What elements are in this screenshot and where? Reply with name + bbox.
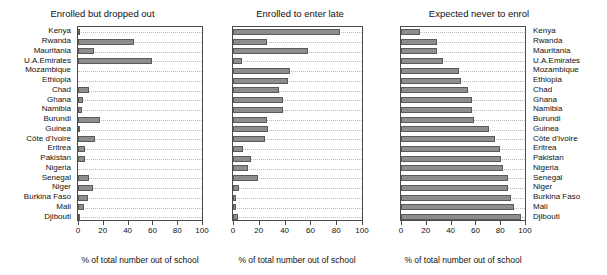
- bar: [233, 97, 283, 103]
- bar: [233, 48, 308, 54]
- bar: [401, 126, 489, 132]
- x-tick: [202, 221, 203, 225]
- panel-3-x-axis: 020406080100: [400, 221, 526, 241]
- x-tick: [426, 221, 427, 225]
- category-label: Kenya: [533, 26, 556, 35]
- category-label: Burkina Faso: [533, 192, 580, 201]
- x-tick-label: 40: [115, 226, 141, 235]
- bar: [78, 204, 84, 210]
- bar: [233, 146, 243, 152]
- bar: [401, 78, 461, 84]
- panel-3-x-axis-label: % of total number out of school: [348, 255, 578, 265]
- x-tick-label: 20: [413, 226, 439, 235]
- panel-2-x-axis: 020406080100: [232, 221, 363, 241]
- category-label: Nigeria: [533, 163, 558, 172]
- bar: [233, 156, 251, 162]
- bar: [401, 165, 503, 171]
- bar: [233, 185, 239, 191]
- x-tick-label: 60: [139, 226, 165, 235]
- bar: [78, 214, 80, 220]
- bar: [401, 185, 508, 191]
- category-label: Chad: [52, 85, 71, 94]
- bar: [78, 117, 100, 123]
- x-tick: [152, 221, 153, 225]
- category-label: Kenya: [48, 26, 71, 35]
- x-tick: [500, 221, 501, 225]
- category-label: Rwanda: [42, 36, 71, 45]
- category-label: Senegal: [533, 173, 562, 182]
- x-tick-label: 80: [164, 226, 190, 235]
- bar: [233, 136, 265, 142]
- panel-1-title: Enrolled but dropped out: [0, 8, 205, 19]
- category-label: Ghana: [47, 95, 71, 104]
- category-label: Mauritania: [533, 46, 570, 55]
- category-label: Nigeria: [46, 163, 71, 172]
- bar: [401, 48, 437, 54]
- bar: [401, 29, 420, 35]
- panel-1-x-axis: 020406080100: [77, 221, 203, 241]
- bar: [233, 195, 236, 201]
- x-tick: [451, 221, 452, 225]
- category-label: Mozambique: [533, 65, 579, 74]
- bar: [78, 29, 80, 35]
- panel-2-plot-area: [232, 26, 363, 221]
- x-tick: [285, 221, 286, 225]
- bar: [401, 68, 459, 74]
- x-tick-label: 20: [246, 226, 272, 235]
- bar: [78, 126, 80, 132]
- x-tick-label: 60: [462, 226, 488, 235]
- category-label: U.A.Emirates: [533, 56, 580, 65]
- x-tick: [401, 221, 402, 225]
- panel-1-plot-area: [77, 26, 203, 221]
- category-label: Pakistan: [533, 153, 564, 162]
- bar: [401, 195, 511, 201]
- category-label: Ethiopia: [533, 75, 562, 84]
- panel-3-title: Expected never to enrol: [373, 8, 585, 19]
- x-tick: [177, 221, 178, 225]
- bar: [233, 29, 340, 35]
- panel-1-bars: [78, 27, 202, 220]
- bar: [401, 58, 443, 64]
- x-tick: [103, 221, 104, 225]
- category-label: Mali: [56, 202, 71, 211]
- x-tick: [362, 221, 363, 225]
- figure-root: Enrolled but dropped out KenyaRwandaMaur…: [0, 0, 607, 275]
- x-tick-label: 0: [220, 226, 246, 235]
- bar: [78, 39, 134, 45]
- bar: [78, 146, 85, 152]
- x-tick-label: 80: [487, 226, 513, 235]
- category-label: Burundi: [533, 114, 561, 123]
- bar: [233, 214, 238, 220]
- panel-2-bars: [233, 27, 362, 220]
- bar: [401, 117, 474, 123]
- bar: [78, 97, 83, 103]
- x-tick: [128, 221, 129, 225]
- category-label: Chad: [533, 85, 552, 94]
- bar: [233, 204, 236, 210]
- bar: [401, 204, 514, 210]
- category-label: Mali: [533, 202, 548, 211]
- bar: [401, 214, 521, 220]
- x-tick: [259, 221, 260, 225]
- x-tick-label: 40: [272, 226, 298, 235]
- bar: [233, 165, 248, 171]
- bar: [401, 156, 501, 162]
- bar: [78, 156, 85, 162]
- category-label: Côte d'Ivoire: [26, 134, 71, 143]
- category-label: Guinea: [45, 124, 71, 133]
- bar: [401, 146, 500, 152]
- category-label: Mauritania: [34, 46, 71, 55]
- category-label: Niger: [52, 182, 71, 191]
- category-label: Burkina Faso: [24, 192, 71, 201]
- bar: [233, 175, 258, 181]
- panel-1-category-labels: KenyaRwandaMauritaniaU.A.EmiratesMozambi…: [0, 26, 74, 221]
- category-label: Pakistan: [40, 153, 71, 162]
- x-tick-label: 20: [90, 226, 116, 235]
- x-tick-label: 100: [512, 226, 538, 235]
- category-label: Namibia: [533, 104, 562, 113]
- category-label: Djibouti: [44, 212, 71, 221]
- bar: [401, 87, 468, 93]
- bar: [233, 39, 267, 45]
- panel-3-plot-area: [400, 26, 526, 221]
- category-label: Ghana: [533, 95, 557, 104]
